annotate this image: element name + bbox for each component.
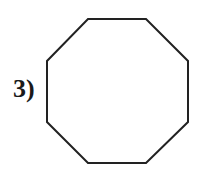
octagon-figure bbox=[0, 0, 210, 179]
octagon-shape bbox=[47, 19, 188, 163]
